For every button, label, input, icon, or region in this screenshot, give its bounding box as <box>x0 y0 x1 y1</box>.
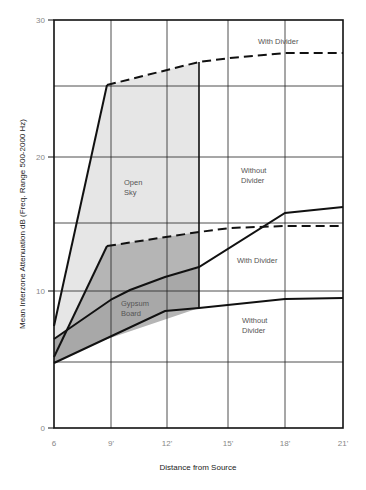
svg-text:9': 9' <box>108 439 114 448</box>
x-tick-labels: 6 9' 12' 15' 18' 21' <box>52 439 349 448</box>
without-divider-mid-label-2: Divider <box>241 176 265 185</box>
svg-text:18': 18' <box>280 439 291 448</box>
svg-text:30: 30 <box>36 16 45 25</box>
with-divider-mid-label: With Divider <box>237 256 278 265</box>
with-divider-top-label: With Divider <box>258 37 299 46</box>
y-axis-title: Mean Interzone Attenuation dB (Freq. Ran… <box>18 119 27 329</box>
svg-text:10: 10 <box>36 287 45 296</box>
without-divider-low-label-1: Without <box>242 316 268 325</box>
open-sky-label-1: Open <box>124 178 142 187</box>
open-sky-label-2: Sky <box>124 188 137 197</box>
svg-text:20: 20 <box>36 153 45 162</box>
gypsum-label-1: Gypsum <box>121 299 149 308</box>
svg-text:0: 0 <box>41 424 46 433</box>
svg-text:12': 12' <box>162 439 173 448</box>
svg-text:15': 15' <box>223 439 234 448</box>
without-divider-mid-label-1: Without <box>241 166 267 175</box>
x-axis-title: Distance from Source <box>160 463 237 472</box>
without-divider-low-label-2: Divider <box>242 326 266 335</box>
gypsum-label-2: Board <box>121 309 141 318</box>
svg-text:6: 6 <box>52 439 57 448</box>
y-tick-labels: 30 20 10 0 <box>36 16 45 433</box>
svg-text:21': 21' <box>338 439 349 448</box>
chart: 30 20 10 0 6 9' 12' 15' 18' 21' Distance… <box>0 0 366 490</box>
